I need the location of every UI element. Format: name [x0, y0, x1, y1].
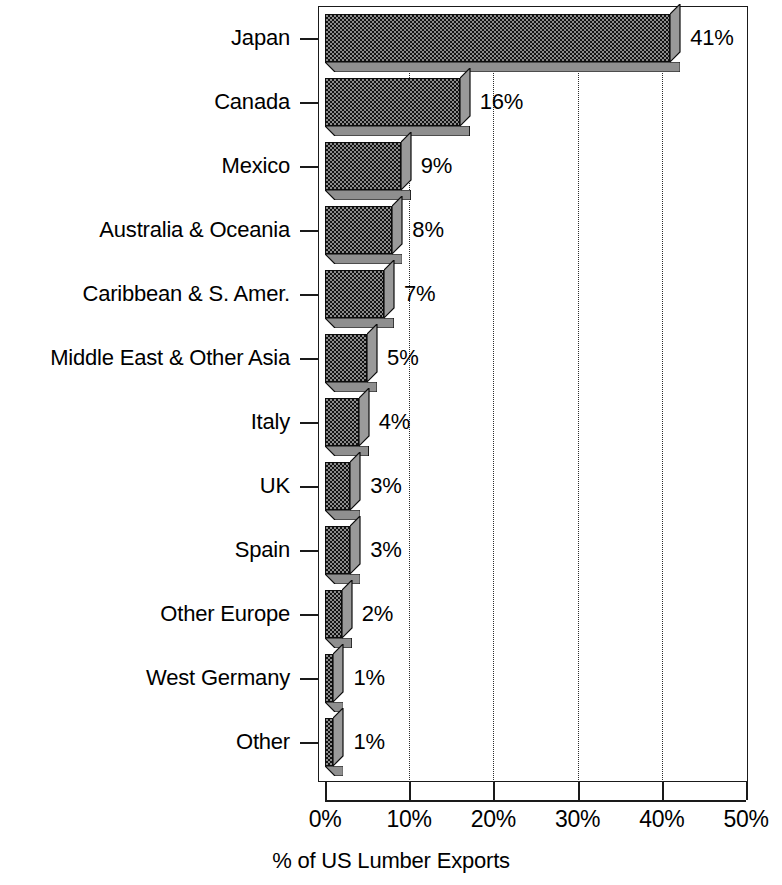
bar-side-face: [367, 324, 377, 382]
x-tick-40: [662, 782, 664, 800]
bar-row: Other1%: [0, 710, 782, 774]
category-label: Canada: [214, 90, 290, 114]
bar-value-label: 3%: [370, 474, 401, 498]
x-tick-0: [325, 782, 327, 800]
category-label: Australia & Oceania: [99, 218, 290, 242]
bar-3d: [325, 398, 369, 456]
bar-row: Australia & Oceania8%: [0, 198, 782, 262]
bar-row: Middle East & Other Asia5%: [0, 326, 782, 390]
bar-value-label: 16%: [480, 90, 523, 114]
bar-value-label: 4%: [379, 410, 410, 434]
bar-row: Canada16%: [0, 70, 782, 134]
bar-front-face: [325, 590, 342, 638]
y-axis-tick: [300, 614, 318, 616]
bar-value-label: 41%: [690, 26, 733, 50]
y-axis-tick: [300, 678, 318, 680]
bar-value-label: 2%: [362, 602, 393, 626]
bar-value-label: 1%: [353, 666, 384, 690]
bar-row: Spain3%: [0, 518, 782, 582]
bar-side-face: [401, 132, 411, 190]
bar-side-face: [359, 388, 369, 446]
bar-front-face: [325, 142, 401, 190]
x-tick-label: 0%: [309, 806, 342, 832]
category-label: West Germany: [146, 666, 290, 690]
x-tick-50: [746, 782, 748, 800]
bar-front-face: [325, 78, 460, 126]
bar-3d: [325, 526, 360, 584]
bar-front-face: [325, 398, 359, 446]
bar-side-face: [670, 4, 680, 62]
bar-3d: [325, 718, 343, 776]
bar-side-face: [350, 516, 360, 574]
category-label: UK: [260, 474, 290, 498]
bar-value-label: 1%: [353, 730, 384, 754]
category-label: Mexico: [222, 154, 291, 178]
bar-row: West Germany1%: [0, 646, 782, 710]
bar-side-face: [460, 68, 470, 126]
bar-side-face: [392, 196, 402, 254]
bar-front-face: [325, 526, 350, 574]
bar-value-label: 5%: [387, 346, 418, 370]
x-tick-10: [409, 782, 411, 800]
bar-3d: [325, 14, 680, 72]
category-label: Other Europe: [160, 602, 290, 626]
x-axis-line: [325, 800, 746, 802]
category-label: Japan: [231, 26, 290, 50]
y-axis-tick: [300, 102, 318, 104]
bar-3d: [325, 462, 360, 520]
bar-front-face: [325, 462, 350, 510]
bar-front-face: [325, 270, 384, 318]
bar-3d: [325, 206, 402, 264]
bar-side-face: [342, 580, 352, 638]
bar-side-face: [333, 708, 343, 766]
x-tick-label: 10%: [387, 806, 432, 832]
bar-side-face: [350, 452, 360, 510]
bar-row: Caribbean & S. Amer.7%: [0, 262, 782, 326]
y-axis-tick: [300, 294, 318, 296]
category-label: Caribbean & S. Amer.: [82, 282, 290, 306]
x-tick-label: 20%: [471, 806, 516, 832]
bar-front-face: [325, 718, 333, 766]
y-axis-tick: [300, 38, 318, 40]
bar-front-face: [325, 14, 670, 62]
y-axis-tick: [300, 422, 318, 424]
bar-front-face: [325, 334, 367, 382]
bar-row: Mexico9%: [0, 134, 782, 198]
y-axis-tick: [300, 550, 318, 552]
bar-front-face: [325, 654, 333, 702]
y-axis-tick: [300, 742, 318, 744]
category-label: Spain: [235, 538, 290, 562]
bar-3d: [325, 78, 470, 136]
y-axis-tick: [300, 230, 318, 232]
bar-3d: [325, 270, 394, 328]
x-tick-label: 50%: [723, 806, 768, 832]
bar-value-label: 8%: [412, 218, 443, 242]
bar-3d: [325, 334, 377, 392]
bar-row: Japan41%: [0, 6, 782, 70]
bar-side-face: [384, 260, 394, 318]
x-axis-title: % of US Lumber Exports: [0, 848, 782, 874]
y-axis-tick: [300, 358, 318, 360]
bar-front-face: [325, 206, 392, 254]
category-label: Italy: [251, 410, 290, 434]
bar-side-face: [333, 644, 343, 702]
category-label: Other: [236, 730, 290, 754]
lumber-exports-bar-chart: Japan41%Canada16%Mexico9%Australia & Oce…: [0, 0, 782, 885]
category-label: Middle East & Other Asia: [50, 346, 290, 370]
y-axis-tick: [300, 166, 318, 168]
x-tick-30: [578, 782, 580, 800]
bar-row: Other Europe2%: [0, 582, 782, 646]
x-tick-label: 40%: [639, 806, 684, 832]
bar-value-label: 9%: [421, 154, 452, 178]
bar-3d: [325, 142, 411, 200]
bar-value-label: 3%: [370, 538, 401, 562]
x-tick-label: 30%: [555, 806, 600, 832]
bar-3d: [325, 654, 343, 712]
bar-value-label: 7%: [404, 282, 435, 306]
bar-row: UK3%: [0, 454, 782, 518]
x-tick-20: [493, 782, 495, 800]
bar-3d: [325, 590, 352, 648]
bar-row: Italy4%: [0, 390, 782, 454]
y-axis-tick: [300, 486, 318, 488]
